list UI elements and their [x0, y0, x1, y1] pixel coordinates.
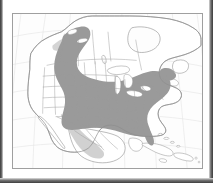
bahamas-island-4 — [176, 145, 180, 147]
antilles-dot-2 — [198, 161, 200, 163]
scan-edge-bottom — [0, 178, 213, 183]
lake-ontario — [141, 86, 151, 91]
scan-edge-right — [209, 0, 213, 183]
bahamas-island-2 — [164, 137, 169, 139]
map-frame: conic — [12, 13, 203, 169]
map-canvas — [13, 14, 202, 168]
antilles-dot-1 — [195, 157, 197, 159]
scan-edge-left — [0, 0, 3, 183]
landmass-newfoundland — [173, 60, 189, 73]
figure-root: conic North America distribution range m… — [0, 0, 213, 183]
bahamas-island-3 — [170, 141, 174, 143]
